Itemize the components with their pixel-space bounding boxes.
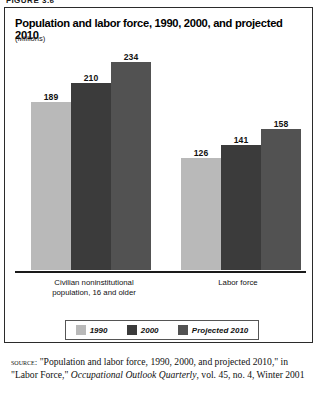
bar-wrap-labor-force-2000: 141 — [221, 48, 261, 270]
figure-frame: Population and labor force, 1990, 2000, … — [4, 7, 313, 343]
bar-group-population: 189 210 234 — [31, 48, 151, 270]
legend-swatch-projected-2010 — [178, 325, 188, 335]
category-label-population-line2: population, 16 and older — [19, 288, 169, 298]
figure-units-label: (Millions) — [15, 34, 45, 43]
chart-legend: 1990 2000 Projected 2010 — [65, 320, 259, 340]
category-label-population-line1: Civilian noninstitutional — [19, 278, 169, 288]
legend-label-1990: 1990 — [90, 326, 108, 335]
figure-title: Population and labor force, 1990, 2000, … — [15, 17, 305, 41]
bar-value-labor-force-2010: 158 — [261, 119, 301, 129]
legend-swatch-2000 — [127, 325, 137, 335]
legend-label-projected-2010: Projected 2010 — [192, 326, 248, 335]
category-label-labor-force: Labor force — [173, 278, 303, 288]
category-label-labor-force-line1: Labor force — [173, 278, 303, 288]
bar-labor-force-2000[interactable] — [221, 145, 261, 270]
bar-labor-force-1990[interactable] — [181, 158, 221, 270]
bar-value-labor-force-1990: 126 — [181, 148, 221, 158]
bar-population-2010[interactable] — [111, 62, 151, 270]
source-publication-title: Occupational Outlook Quarterly — [71, 369, 197, 380]
bar-value-population-2000: 210 — [71, 73, 111, 83]
bar-population-1990[interactable] — [31, 102, 71, 270]
bar-population-2000[interactable] — [71, 83, 111, 270]
bar-wrap-population-1990: 189 — [31, 48, 71, 270]
bar-labor-force-2010[interactable] — [261, 129, 301, 270]
source-note: source: "Population and labor force, 199… — [11, 356, 307, 380]
x-axis-line — [15, 271, 306, 273]
legend-swatch-1990 — [76, 325, 86, 335]
legend-item-2000[interactable]: 2000 — [127, 325, 159, 335]
source-text-part2: , vol. 45, no. 4, Winter 2001 — [197, 369, 305, 380]
bar-value-population-2010: 234 — [111, 52, 151, 62]
bar-wrap-population-2010: 234 — [111, 48, 151, 270]
source-label: source: — [11, 357, 37, 367]
bar-wrap-labor-force-2010: 158 — [261, 48, 301, 270]
bar-wrap-population-2000: 210 — [71, 48, 111, 270]
legend-item-projected-2010[interactable]: Projected 2010 — [178, 325, 248, 335]
category-label-population: Civilian noninstitutional population, 16… — [19, 278, 169, 297]
bar-value-population-1990: 189 — [31, 92, 71, 102]
legend-label-2000: 2000 — [141, 326, 159, 335]
bar-group-labor-force: 126 141 158 — [181, 48, 301, 270]
figure-caption-sliver: FIGURE 3.6 — [6, 0, 55, 3]
bar-chart-plot-area: 189 210 234 126 141 158 — [15, 48, 304, 270]
legend-item-1990[interactable]: 1990 — [76, 325, 108, 335]
bar-wrap-labor-force-1990: 126 — [181, 48, 221, 270]
bar-value-labor-force-2000: 141 — [221, 135, 261, 145]
